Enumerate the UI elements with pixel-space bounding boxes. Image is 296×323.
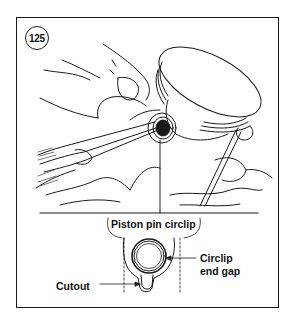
- label-cutout: Cutout: [56, 280, 90, 292]
- label-circlip-end-gap-line2: end gap: [200, 265, 240, 277]
- label-piston-pin-circlip: Piston pin circlip: [111, 218, 196, 230]
- rag-drawing: [46, 167, 262, 206]
- pliers-drawing: [36, 122, 158, 188]
- piston-drawing: [148, 33, 272, 206]
- pin-bore-drawing: [148, 113, 176, 213]
- figure-number-badge: 125: [25, 26, 49, 50]
- piston-circlip-illustration: [0, 0, 296, 323]
- hand-drawing: [40, 44, 160, 120]
- label-circlip-end-gap-line1: Circlip: [200, 252, 233, 264]
